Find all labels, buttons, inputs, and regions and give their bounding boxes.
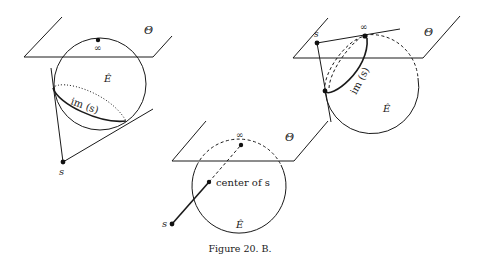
sphere-e-hat-back <box>365 35 418 78</box>
image-label: im (s) <box>348 65 371 96</box>
tangent-line-right <box>63 109 153 162</box>
infinity-point <box>96 38 100 42</box>
plane-theta <box>172 121 328 161</box>
point-s-label: s <box>59 166 64 177</box>
infinity-point <box>239 143 243 147</box>
point-s <box>315 41 320 46</box>
plane-label: Θ <box>424 26 433 39</box>
center-point <box>207 180 211 184</box>
plane-label: Θ <box>285 131 294 144</box>
infinity-label: ∞ <box>236 130 244 140</box>
point-s-label: s <box>314 29 319 39</box>
tangent-line <box>317 43 331 122</box>
point-s <box>170 222 175 227</box>
sphere-label: Ê <box>235 219 244 230</box>
figure-caption: Figure 20. B. <box>208 243 271 254</box>
sphere-label: Ê <box>382 103 391 114</box>
center-label: center of s <box>216 177 270 188</box>
line-s-to-center <box>172 182 209 224</box>
tangent-point <box>323 89 328 94</box>
point-s-label: s <box>162 218 167 229</box>
plane-label: Θ <box>144 24 153 37</box>
sphere-e-hat-front <box>325 78 419 134</box>
sphere-label: Ê <box>103 73 112 84</box>
infinity-label: ∞ <box>360 22 368 32</box>
infinity-label: ∞ <box>94 43 102 53</box>
tangent-line-left <box>51 68 63 162</box>
line-s-to-infinity <box>317 29 400 43</box>
point-s <box>61 160 66 165</box>
panel-right: s ∞ Θ Ê im (s) <box>293 16 460 134</box>
panel-left: ∞ Θ Ê s im (s) <box>24 17 172 177</box>
figure-20b-diagram: ∞ Θ Ê s im (s) s ∞ Θ Ê im (s) <box>0 0 482 262</box>
infinity-point <box>362 33 367 38</box>
panel-bottom: ∞ Θ center of s s Ê <box>162 121 328 233</box>
